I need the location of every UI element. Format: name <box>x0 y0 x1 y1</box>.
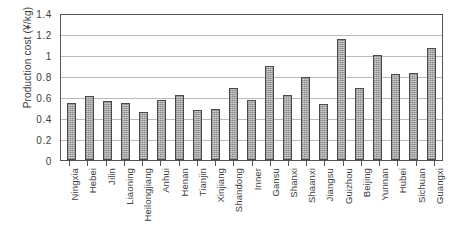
bar-slot <box>98 15 116 160</box>
bar[interactable] <box>175 95 184 160</box>
x-axis-label-slot: Liaoning <box>117 166 130 250</box>
bar-slot <box>333 15 351 160</box>
x-axis-label-slot: Hebei <box>81 166 94 250</box>
bar-slot <box>369 15 387 160</box>
x-axis-tick-labels: NingxiaHebeiJilinLiaoningHeilongjiangAnh… <box>60 166 443 250</box>
bar-slot <box>80 15 98 160</box>
x-axis-tick-label: Shaanxi <box>306 168 317 203</box>
bar-slot <box>279 15 297 160</box>
x-axis-tick-label: Ningxia <box>69 168 80 200</box>
x-axis-label-slot: Yunnan <box>373 166 386 250</box>
x-axis-tick-label: Xinjiang <box>215 168 226 203</box>
bar-slot <box>152 15 170 160</box>
x-axis-label-slot: Shaanxi <box>300 166 313 250</box>
bar[interactable] <box>193 110 202 160</box>
plot-area <box>60 14 443 161</box>
bar[interactable] <box>283 95 292 160</box>
bar[interactable] <box>139 112 148 160</box>
bar-slot <box>62 15 80 160</box>
y-axis-tick-label: 0.8 <box>36 72 52 83</box>
x-axis-label-slot: Anhui <box>154 166 167 250</box>
bar[interactable] <box>427 48 436 160</box>
bar[interactable] <box>211 109 220 160</box>
x-axis-tick-label: Hubei <box>397 168 408 193</box>
bar-slot <box>423 15 441 160</box>
y-axis-tick-label: 0.4 <box>36 114 52 125</box>
bar[interactable] <box>301 77 310 160</box>
x-axis-label-slot: Guizhou <box>336 166 349 250</box>
x-axis-tick-label: Heilongjiang <box>142 168 153 222</box>
x-axis-tick-label: Jiangsu <box>324 168 335 201</box>
bar[interactable] <box>409 73 418 160</box>
x-axis-label-slot: Inner <box>245 166 258 250</box>
bar[interactable] <box>85 96 94 160</box>
bar-slot <box>224 15 242 160</box>
x-axis-label-slot: Jiangsu <box>318 166 331 250</box>
x-axis-tick-label: Jilin <box>106 168 117 185</box>
bar[interactable] <box>373 55 382 160</box>
x-axis-label-slot: Beijing <box>354 166 367 250</box>
bar-slot <box>315 15 333 160</box>
bar[interactable] <box>247 100 256 160</box>
bar[interactable] <box>67 103 76 160</box>
bar[interactable] <box>355 88 364 160</box>
x-axis-tick-label: Tianjin <box>197 168 208 196</box>
x-axis-tick-label: Sichuan <box>416 168 427 203</box>
bar-series <box>61 15 442 160</box>
bar[interactable] <box>337 39 346 160</box>
x-axis-tick-label: Guangxi <box>434 168 445 204</box>
x-axis-label-slot: Henan <box>172 166 185 250</box>
bar-slot <box>188 15 206 160</box>
x-axis-label-slot: Tianjin <box>190 166 203 250</box>
bar[interactable] <box>103 101 112 160</box>
x-axis-tick-label: Henan <box>179 168 190 197</box>
x-axis-label-slot: Ningxia <box>63 166 76 250</box>
y-axis-tick-label: 1.2 <box>36 30 52 41</box>
y-axis-tick-label: 0.2 <box>36 135 52 146</box>
y-axis-tick-label: 0.6 <box>36 93 52 104</box>
bar[interactable] <box>391 74 400 160</box>
x-axis-tick-label: Anhui <box>160 168 171 193</box>
x-axis-tick-label: Hebei <box>87 168 98 193</box>
bar-slot <box>405 15 423 160</box>
bar[interactable] <box>157 100 166 160</box>
x-axis-label-slot: Gansu <box>263 166 276 250</box>
x-axis-label-slot: Shandong <box>227 166 240 250</box>
bar[interactable] <box>229 88 238 160</box>
x-axis-label-slot: Xinjiang <box>209 166 222 250</box>
x-axis-tick-label: Shanxi <box>288 168 299 198</box>
bar-slot <box>242 15 260 160</box>
x-axis-tick-label: Liaoning <box>124 168 135 205</box>
bar-slot <box>261 15 279 160</box>
x-axis-label-slot: Sichuan <box>409 166 422 250</box>
bar-slot <box>206 15 224 160</box>
chart-container: Production cost (¥/kg) 00.20.40.60.811.2… <box>0 0 453 251</box>
bar-slot <box>387 15 405 160</box>
x-axis-tick-label: Shandong <box>233 168 244 212</box>
bar[interactable] <box>319 104 328 160</box>
bar-slot <box>297 15 315 160</box>
x-axis-tick-label: Gansu <box>270 168 281 197</box>
x-axis-label-slot: Guangxi <box>427 166 440 250</box>
bar[interactable] <box>121 103 130 160</box>
bar-slot <box>351 15 369 160</box>
x-axis-tick-label: Guizhou <box>343 168 354 204</box>
x-axis-tick-label: Inner <box>252 168 263 190</box>
x-axis-label-slot: Jilin <box>99 166 112 250</box>
x-axis-label-slot: Heilongjiang <box>136 166 149 250</box>
x-axis-label-slot: Shanxi <box>281 166 294 250</box>
y-axis-tick-labels: 00.20.40.60.811.21.4 <box>30 14 58 161</box>
x-axis-label-slot: Hubei <box>391 166 404 250</box>
bar-slot <box>170 15 188 160</box>
x-axis-tick-label: Yunnan <box>379 168 390 201</box>
bar-slot <box>116 15 134 160</box>
x-axis-tick-label: Beijing <box>361 168 372 197</box>
bar[interactable] <box>265 66 274 161</box>
y-axis-tick-label: 0 <box>46 156 52 167</box>
bar-slot <box>134 15 152 160</box>
y-axis-tick-label: 1.4 <box>36 9 52 20</box>
y-axis-tick-label: 1 <box>46 51 52 62</box>
